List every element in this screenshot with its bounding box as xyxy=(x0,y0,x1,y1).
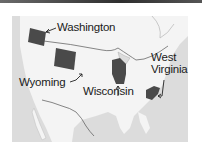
label-virginia: Virginia xyxy=(151,63,188,75)
label-west: West xyxy=(151,51,176,63)
label-wyoming: Wyoming xyxy=(19,76,65,88)
top-border xyxy=(0,0,202,3)
label-wisconsin: Wisconsin xyxy=(83,85,134,97)
florida xyxy=(138,112,150,134)
label-washington: Washington xyxy=(57,21,115,33)
